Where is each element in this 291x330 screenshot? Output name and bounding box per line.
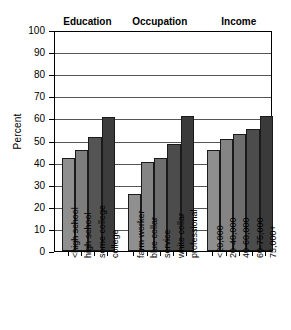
gridline (55, 97, 271, 98)
x-axis-tick (252, 252, 253, 256)
y-axis-label: 100 (5, 26, 45, 36)
x-axis-tick (68, 252, 69, 256)
y-axis-label: 0 (5, 247, 45, 257)
x-axis-label: <high school (71, 207, 80, 258)
y-axis-tick (49, 252, 54, 253)
x-axis-label: professional (190, 209, 199, 258)
y-axis-title: Percent (12, 102, 23, 162)
x-axis-label: farm worker (137, 210, 146, 258)
x-axis-tick (173, 252, 174, 256)
x-axis-label: blue collar (150, 217, 159, 258)
x-axis-label: <20,000 (216, 225, 225, 258)
y-axis-label: 40 (5, 159, 45, 169)
y-axis-label: 90 (5, 48, 45, 58)
y-axis-label: 30 (5, 181, 45, 191)
gridline (55, 53, 271, 54)
x-axis-label: 20-40,000 (229, 217, 238, 258)
group-label: Education (61, 16, 114, 27)
gridline (55, 75, 271, 76)
y-axis-label: 60 (5, 114, 45, 124)
x-axis-tick (81, 252, 82, 256)
y-axis-label: 80 (5, 70, 45, 80)
x-axis-label: 60-75,000 (256, 217, 265, 258)
x-axis-label: college (111, 229, 120, 258)
x-axis-label: 40-60,000 (242, 217, 251, 258)
group-label: Income (206, 16, 272, 27)
x-axis-tick (186, 252, 187, 256)
x-axis-tick (265, 252, 266, 256)
x-axis-tick (133, 252, 134, 256)
x-axis-tick (239, 252, 240, 256)
y-axis-label: 70 (5, 92, 45, 102)
x-axis-tick (226, 252, 227, 256)
y-axis-label: 10 (5, 225, 45, 235)
y-axis-label: 20 (5, 203, 45, 213)
x-axis-label: high school (84, 212, 93, 258)
x-axis-label: some college (98, 205, 107, 258)
x-axis-label: service (163, 229, 172, 258)
x-axis-label: white collar (177, 213, 186, 258)
gridline (55, 119, 271, 120)
bar-chart: Percent 1009080706050403020100 Education… (0, 0, 291, 330)
y-axis-label: 50 (5, 137, 45, 147)
x-axis-label: 75,000+ (269, 225, 278, 258)
x-axis-tick (160, 252, 161, 256)
x-axis-tick (107, 252, 108, 256)
x-axis-tick (147, 252, 148, 256)
x-axis-tick (94, 252, 95, 256)
group-label: Occupation (127, 16, 193, 27)
x-axis-tick (212, 252, 213, 256)
